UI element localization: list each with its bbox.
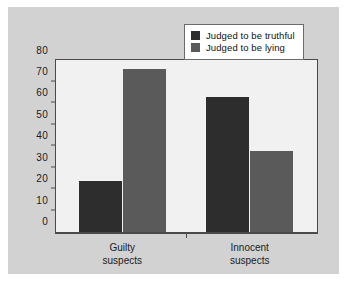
bar-lying: [123, 69, 166, 232]
bar-truthful: [206, 97, 249, 232]
plot-area: 01020304050607080 GuiltysuspectsInnocent…: [55, 59, 318, 234]
y-axis-tick-mark: [51, 209, 56, 210]
y-axis-tick-mark: [51, 102, 56, 103]
figure: Judged to be truthful Judged to be lying…: [0, 0, 347, 281]
y-axis-tick-label: 60: [36, 87, 56, 98]
y-axis-tick-label: 30: [36, 151, 56, 162]
x-axis-category-line: Guilty: [103, 241, 142, 254]
legend-item-truthful: Judged to be truthful: [191, 30, 295, 41]
figure-panel: Judged to be truthful Judged to be lying…: [8, 7, 339, 274]
x-axis-center-tick: [186, 232, 187, 238]
y-axis-tick-mark: [51, 145, 56, 146]
x-axis-category-line: Innocent: [230, 241, 269, 254]
legend-swatch-lying: [191, 43, 200, 52]
y-axis-tick-mark: [51, 80, 56, 81]
y-axis-tick-label: 40: [36, 130, 56, 141]
legend-item-lying: Judged to be lying: [191, 42, 295, 53]
bar-truthful: [79, 181, 122, 232]
x-axis-category-label: Guiltysuspects: [103, 241, 142, 267]
y-axis-tick-label: 0: [42, 216, 56, 227]
x-axis-category-line: suspects: [230, 254, 269, 267]
y-axis-tick-mark: [51, 188, 56, 189]
legend-label-lying: Judged to be lying: [206, 42, 285, 53]
x-axis-category-label: Innocentsuspects: [230, 241, 269, 267]
y-axis-tick-label: 70: [36, 65, 56, 76]
y-axis-tick-mark: [51, 166, 56, 167]
chart-legend: Judged to be truthful Judged to be lying: [184, 24, 304, 60]
bar-lying: [250, 151, 293, 232]
y-axis-tick-label: 50: [36, 108, 56, 119]
legend-label-truthful: Judged to be truthful: [206, 30, 295, 41]
y-axis-tick-mark: [51, 123, 56, 124]
y-axis-tick-label: 10: [36, 194, 56, 205]
x-axis-category-line: suspects: [103, 254, 142, 267]
y-axis-tick-label: 80: [36, 44, 56, 55]
y-axis-tick-label: 20: [36, 173, 56, 184]
legend-swatch-truthful: [191, 31, 200, 40]
